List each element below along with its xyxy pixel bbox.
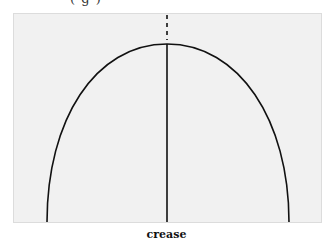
- arch-curve: [47, 44, 289, 222]
- crease-caption: crease: [0, 228, 333, 241]
- crease-diagram: [0, 0, 333, 244]
